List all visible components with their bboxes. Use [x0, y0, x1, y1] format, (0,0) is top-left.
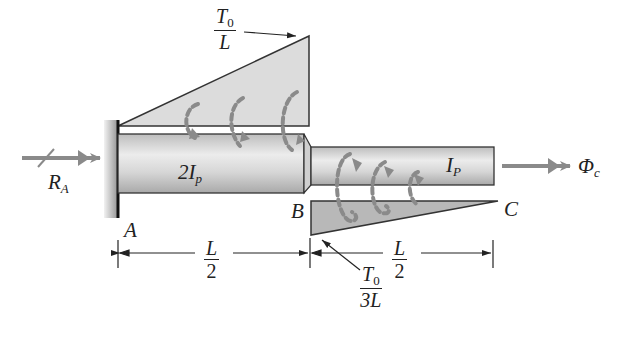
point-a-label: A [124, 220, 137, 241]
shaft-ab-inertia-label: 2Ip [178, 162, 202, 185]
shaft-diagram [0, 0, 624, 338]
reaction-label: RA [48, 172, 69, 195]
point-b-label: B [291, 201, 304, 222]
shaft-bc-inertia-label: IP [446, 155, 461, 178]
shaft-step [304, 134, 311, 193]
bottom-load-leader [322, 240, 360, 270]
top-load-leader [244, 32, 296, 36]
rotation-angle-arrow [502, 158, 570, 174]
angle-label: Φc [578, 156, 600, 179]
shaft-segment-ab [118, 134, 304, 193]
dimension-label-bc: L 2 [392, 238, 407, 281]
point-c-label: C [504, 199, 518, 220]
fixed-wall [104, 120, 117, 218]
dimension-label-ab: L 2 [204, 238, 219, 281]
dimension-lines [118, 238, 493, 268]
top-load-label: T0 L [214, 6, 236, 52]
bottom-load-label: T0 3L [360, 264, 382, 310]
reaction-arrow [22, 149, 100, 167]
